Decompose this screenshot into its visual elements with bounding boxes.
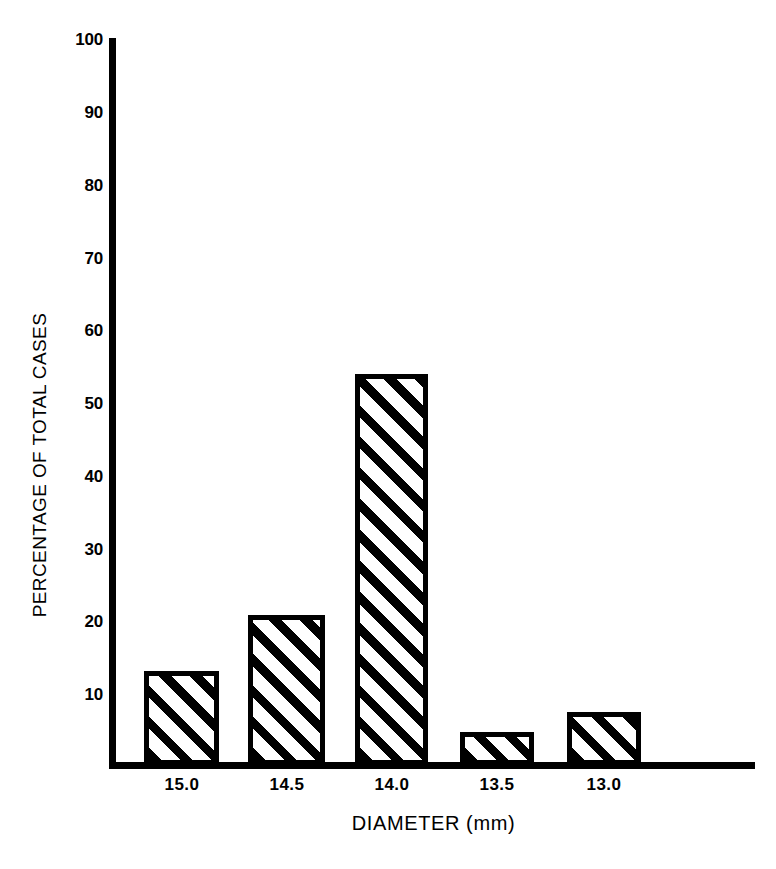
x-tick-14-0: 14.0 [346, 776, 438, 793]
y-tick-50: 50 [55, 395, 103, 413]
y-tick-70: 70 [55, 250, 103, 268]
bar-chart-figure: 100 90 80 70 60 50 40 30 20 10 [0, 0, 776, 869]
y-tick-label: 40 [55, 468, 103, 485]
y-tick-label: 60 [55, 322, 103, 339]
y-tick-80: 80 [55, 177, 103, 195]
y-tick-label: 30 [55, 541, 103, 558]
bar-15-0 [144, 671, 219, 765]
y-tick-10: 10 [55, 686, 103, 704]
y-tick-100: 100 [55, 31, 103, 49]
x-tick-13-5: 13.5 [451, 776, 543, 793]
x-tick-label: 13.5 [479, 775, 514, 794]
x-axis-title: DIAMETER (mm) [112, 812, 755, 835]
y-axis-title: PERCENTAGE OF TOTAL CASES [22, 230, 58, 700]
y-tick-30: 30 [55, 541, 103, 559]
x-tick-label: 14.0 [374, 775, 409, 794]
y-tick-label: 80 [55, 177, 103, 194]
y-tick-label: 50 [55, 395, 103, 412]
y-tick-label: 70 [55, 250, 103, 267]
y-tick-label: 90 [55, 104, 103, 121]
y-tick-label: 20 [55, 613, 103, 630]
x-tick-13-0: 13.0 [558, 776, 650, 793]
y-tick-90: 90 [55, 104, 103, 122]
x-tick-label: 14.5 [269, 775, 304, 794]
x-tick-15-0: 15.0 [136, 776, 228, 793]
y-tick-60: 60 [55, 322, 103, 340]
y-tick-20: 20 [55, 613, 103, 631]
x-tick-label: 15.0 [164, 775, 199, 794]
bar-13-0 [567, 712, 641, 765]
bar-13-5 [460, 732, 534, 765]
y-tick-label: 100 [55, 31, 103, 48]
x-tick-14-5: 14.5 [241, 776, 333, 793]
y-tick-40: 40 [55, 468, 103, 486]
x-tick-label: 13.0 [586, 775, 621, 794]
bar-14-0 [355, 374, 428, 765]
plot-area: 100 90 80 70 60 50 40 30 20 10 [0, 0, 776, 869]
y-tick-label: 10 [55, 686, 103, 703]
bar-14-5 [248, 615, 325, 765]
y-axis-line [109, 38, 116, 768]
